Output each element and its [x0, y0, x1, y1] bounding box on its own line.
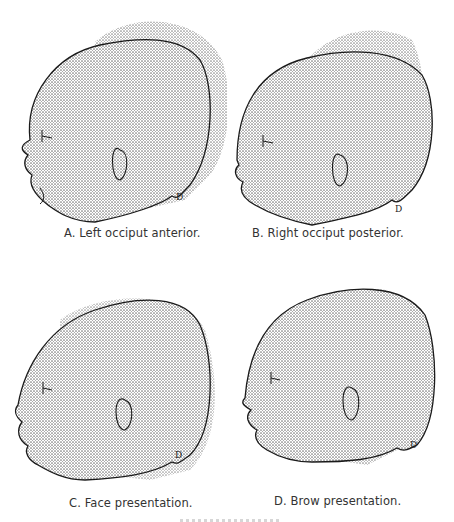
infant-head-illustration: D [227, 0, 454, 245]
infant-head-illustration: D [0, 270, 227, 515]
caption-b: B. Right occiput posterior. [252, 226, 404, 240]
panel-b-right-occiput-posterior: D B. Right occiput posterior. [227, 0, 454, 245]
caption-d: D. Brow presentation. [274, 494, 401, 508]
svg-text:Ɒ: Ɒ [176, 192, 183, 202]
svg-text:D: D [395, 204, 402, 214]
infant-head-illustration: Ɒ [0, 0, 227, 245]
svg-text:D: D [410, 440, 417, 450]
panel-c-face-presentation: D C. Face presentation. [0, 270, 227, 515]
caption-c: C. Face presentation. [69, 496, 193, 510]
panel-a-left-occiput-anterior: Ɒ A. Left occiput anterior. [0, 0, 227, 245]
svg-text:D: D [175, 450, 182, 460]
panel-d-brow-presentation: D D. Brow presentation. [227, 270, 454, 515]
infant-head-illustration: D [227, 270, 454, 515]
truncated-figure-caption [180, 515, 280, 522]
caption-a: A. Left occiput anterior. [64, 226, 201, 240]
